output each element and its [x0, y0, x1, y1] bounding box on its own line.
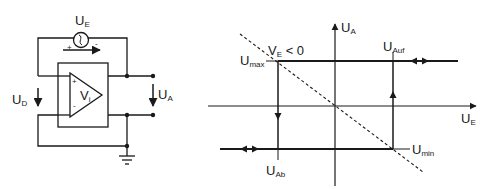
opamp-plus-sign: +	[72, 78, 77, 86]
wire-left-bottom	[38, 115, 127, 146]
uauf-label: UAuf	[383, 40, 404, 55]
source-voltage-label: UE	[75, 14, 90, 29]
uab-label: UAb	[266, 164, 285, 179]
circuit	[38, 33, 153, 165]
differential-voltage-label: UD	[12, 93, 27, 108]
voltage-source-icon	[74, 33, 89, 48]
opamp-minus-sign: -	[73, 102, 76, 110]
ve-condition-label: VE < 0	[268, 44, 304, 59]
double-arrow-right-icon	[252, 146, 259, 153]
up-arrow-icon	[390, 91, 397, 98]
down-arrow-icon	[275, 113, 282, 120]
double-arrow-left-icon	[410, 58, 417, 65]
double-arrow-left-icon	[240, 146, 247, 153]
output-voltage-label: UA	[158, 88, 173, 103]
diagram-canvas	[0, 0, 489, 189]
junction-dots	[125, 74, 155, 148]
double-arrow-right-icon	[422, 58, 429, 65]
y-axis-label: UA	[341, 21, 356, 36]
source-plus-sign: +	[67, 44, 72, 52]
hysteresis-graph	[208, 24, 476, 186]
source-minus-sign: -	[95, 40, 98, 48]
amplifier-gain-label: Vi	[80, 89, 90, 104]
x-axis-label: UE	[461, 112, 476, 127]
source-wave-icon	[79, 35, 82, 45]
umax-label: Umax	[240, 54, 265, 69]
umin-label: Umin	[412, 143, 434, 158]
